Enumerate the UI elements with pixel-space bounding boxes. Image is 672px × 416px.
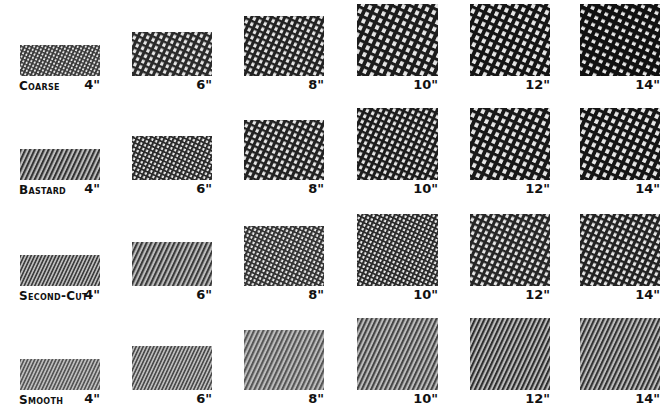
swatch-texture — [580, 4, 660, 76]
swatch-texture — [244, 226, 324, 286]
swatch-bastard-8in — [244, 120, 324, 180]
swatch-texture — [20, 359, 100, 390]
size-label: 8" — [284, 78, 324, 92]
swatch-texture — [244, 330, 324, 390]
swatch-texture — [132, 136, 212, 180]
swatch-texture — [20, 45, 100, 76]
swatch-texture — [580, 318, 660, 390]
size-label: 14" — [620, 78, 660, 92]
size-label: 14" — [620, 392, 660, 406]
swatch-texture — [357, 108, 438, 180]
grade-label-bastard: Bastard — [19, 183, 66, 197]
swatch-texture — [132, 242, 212, 286]
swatch-second-cut-10in — [357, 214, 438, 286]
swatch-coarse-12in — [470, 4, 550, 76]
swatch-second-cut-6in — [132, 242, 212, 286]
size-label: 6" — [172, 392, 212, 406]
swatch-texture — [470, 318, 550, 390]
swatch-texture — [470, 4, 550, 76]
size-label: 10" — [398, 392, 438, 406]
swatch-bastard-6in — [132, 136, 212, 180]
size-label: 14" — [620, 182, 660, 196]
swatch-bastard-12in — [470, 108, 550, 180]
grade-label-second-cut: Second-Cut — [19, 289, 88, 303]
swatch-second-cut-14in — [580, 214, 660, 286]
swatch-coarse-6in — [132, 32, 212, 76]
swatch-coarse-10in — [357, 4, 438, 76]
swatch-texture — [132, 32, 212, 76]
swatch-smooth-14in — [580, 318, 660, 390]
swatch-texture — [357, 4, 438, 76]
grade-label-smooth: Smooth — [19, 393, 63, 407]
size-label: 4" — [60, 392, 100, 406]
swatch-bastard-4in — [20, 149, 100, 180]
size-label: 8" — [284, 182, 324, 196]
swatch-texture — [357, 214, 438, 286]
swatch-texture — [580, 108, 660, 180]
size-label: 8" — [284, 288, 324, 302]
swatch-bastard-14in — [580, 108, 660, 180]
size-label: 6" — [172, 182, 212, 196]
size-label: 14" — [620, 288, 660, 302]
swatch-texture — [132, 346, 212, 390]
swatch-bastard-10in — [357, 108, 438, 180]
swatch-texture — [357, 318, 438, 390]
swatch-texture — [20, 149, 100, 180]
swatch-second-cut-8in — [244, 226, 324, 286]
size-label: 10" — [398, 78, 438, 92]
size-label: 8" — [284, 392, 324, 406]
swatch-texture — [470, 214, 550, 286]
size-label: 4" — [60, 78, 100, 92]
swatch-texture — [470, 108, 550, 180]
size-label: 12" — [510, 182, 550, 196]
swatch-texture — [244, 120, 324, 180]
swatch-second-cut-4in — [20, 255, 100, 286]
swatch-coarse-8in — [244, 16, 324, 76]
swatch-coarse-4in — [20, 45, 100, 76]
swatch-smooth-4in — [20, 359, 100, 390]
swatch-smooth-6in — [132, 346, 212, 390]
size-label: 12" — [510, 78, 550, 92]
swatch-smooth-8in — [244, 330, 324, 390]
swatch-texture — [580, 214, 660, 286]
size-label: 6" — [172, 288, 212, 302]
size-label: 12" — [510, 288, 550, 302]
swatch-coarse-14in — [580, 4, 660, 76]
swatch-second-cut-12in — [470, 214, 550, 286]
swatch-smooth-12in — [470, 318, 550, 390]
swatch-texture — [20, 255, 100, 286]
size-label: 10" — [398, 288, 438, 302]
size-label: 12" — [510, 392, 550, 406]
grade-label-coarse: Coarse — [19, 79, 60, 93]
size-label: 10" — [398, 182, 438, 196]
swatch-smooth-10in — [357, 318, 438, 390]
swatch-texture — [244, 16, 324, 76]
size-label: 6" — [172, 78, 212, 92]
